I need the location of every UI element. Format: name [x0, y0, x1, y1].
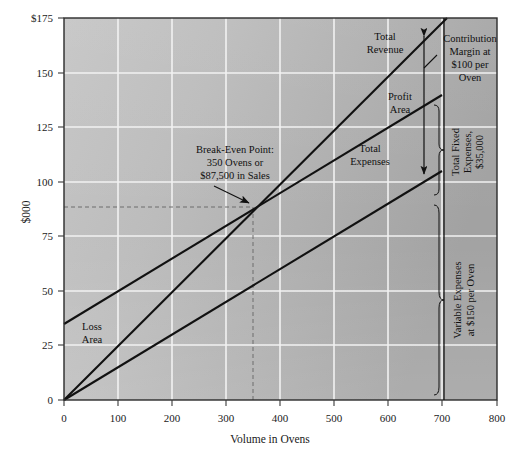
total-revenue-label-line1: Total [374, 31, 396, 42]
contribution-margin-line1: Contribution [443, 33, 497, 44]
y-tick-125: 125 [37, 121, 54, 133]
y-tick-150: 150 [37, 67, 54, 79]
break-even-chart-canvas: $175 150 125 100 75 50 25 0 0 100 200 30… [0, 0, 523, 458]
y-tick-75: 75 [42, 230, 54, 242]
total-expenses-label-line1: Total [359, 143, 381, 154]
x-tick-700: 700 [434, 412, 451, 424]
fixed-expenses-line1: Total Fixed [450, 127, 461, 176]
x-axis-tick-labels: 0 100 200 300 400 500 600 700 800 [61, 412, 506, 424]
y-axis-title: $000 [20, 200, 32, 223]
fixed-expenses-line3: $35,000 [474, 135, 485, 169]
variable-expenses-line2: at $150 per Oven [465, 263, 476, 336]
break-even-line1: Break-Even Point: [196, 144, 274, 155]
loss-area-label-line2: Area [82, 334, 103, 345]
profit-area-label-line2: Area [390, 104, 411, 115]
fixed-expenses-line2: Expenses, [462, 131, 473, 173]
x-axis-title: Volume in Ovens [230, 433, 310, 445]
contribution-margin-line3: $100 per [451, 59, 489, 70]
y-tick-0: 0 [48, 394, 54, 406]
variable-expenses-line1: Variable Expenses [452, 261, 463, 338]
cvp-chart: $175 150 125 100 75 50 25 0 0 100 200 30… [0, 0, 523, 458]
x-tick-500: 500 [326, 412, 343, 424]
y-tick-100: 100 [37, 176, 54, 188]
x-tick-200: 200 [164, 412, 181, 424]
total-revenue-label-line2: Revenue [367, 44, 404, 55]
y-tick-175: $175 [31, 12, 54, 24]
contribution-margin-line2: Margin at [450, 46, 491, 57]
x-tick-800: 800 [489, 412, 506, 424]
loss-area-label-line1: Loss [82, 321, 102, 332]
x-tick-600: 600 [380, 412, 397, 424]
break-even-line3: $87,500 in Sales [200, 170, 270, 181]
x-tick-100: 100 [110, 412, 127, 424]
y-axis-tick-labels: $175 150 125 100 75 50 25 0 [31, 12, 54, 406]
break-even-line2: 350 Ovens or [207, 157, 264, 168]
total-expenses-label-line2: Expenses [350, 156, 390, 167]
y-tick-25: 25 [42, 339, 54, 351]
x-tick-400: 400 [272, 412, 289, 424]
x-tick-300: 300 [218, 412, 235, 424]
profit-area-label-line1: Profit [388, 91, 412, 102]
contribution-margin-line4: Oven [459, 72, 482, 83]
x-tick-0: 0 [61, 412, 67, 424]
y-tick-50: 50 [42, 285, 54, 297]
